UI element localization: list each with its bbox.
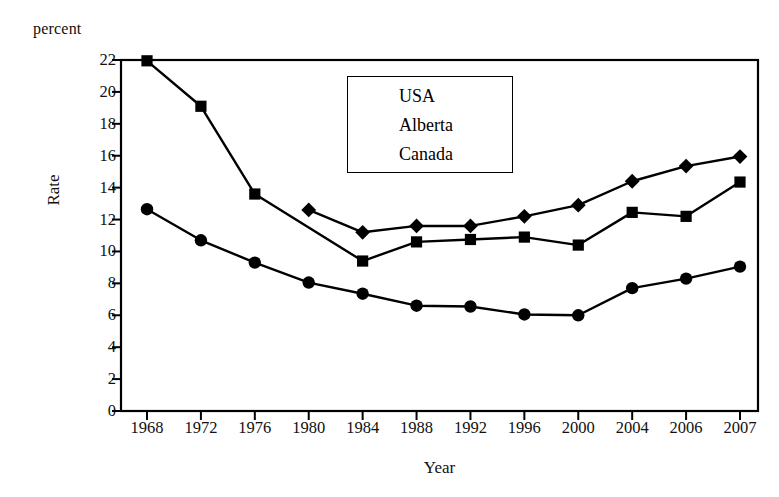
data-point-alberta [411, 236, 422, 247]
data-point-usa [517, 209, 532, 224]
legend-label: Alberta [399, 116, 453, 134]
data-point-canada [572, 309, 584, 321]
data-point-alberta [573, 239, 584, 250]
data-point-usa [409, 219, 424, 234]
data-point-alberta [519, 231, 530, 242]
legend-label: Canada [399, 145, 453, 163]
data-point-usa [571, 198, 586, 213]
data-point-alberta [141, 55, 152, 66]
data-point-canada [464, 300, 476, 312]
data-point-usa [355, 225, 370, 240]
data-point-alberta [627, 207, 638, 218]
data-point-usa [463, 219, 478, 234]
data-point-alberta [734, 176, 745, 187]
data-point-canada [356, 288, 368, 300]
diamond-marker-icon [370, 88, 386, 104]
data-point-alberta [680, 211, 691, 222]
legend-item-canada: Canada [370, 141, 453, 167]
plot-area [0, 0, 779, 497]
legend: USA Alberta Canada [347, 76, 513, 173]
data-point-canada [518, 308, 530, 320]
data-point-alberta [465, 234, 476, 245]
data-point-canada [303, 276, 315, 288]
data-point-canada [680, 272, 692, 284]
data-point-canada [249, 256, 261, 268]
data-point-alberta [195, 101, 206, 112]
data-point-usa [679, 159, 694, 174]
data-point-alberta [249, 188, 260, 199]
data-point-usa [625, 174, 640, 189]
x-axis-label: Year [121, 458, 758, 478]
chart-container: percent Rate 0246810121416182022 1968197… [0, 0, 779, 497]
data-point-alberta [357, 255, 368, 266]
legend-item-alberta: Alberta [370, 112, 453, 138]
data-point-canada [195, 234, 207, 246]
circle-marker-icon [370, 146, 386, 162]
data-point-canada [410, 300, 422, 312]
square-marker-icon [370, 117, 386, 133]
data-point-usa [733, 149, 748, 164]
legend-label: USA [399, 87, 435, 105]
data-point-canada [734, 260, 746, 272]
legend-item-usa: USA [370, 83, 435, 109]
data-point-canada [626, 282, 638, 294]
data-point-usa [301, 203, 316, 218]
data-point-canada [141, 203, 153, 215]
